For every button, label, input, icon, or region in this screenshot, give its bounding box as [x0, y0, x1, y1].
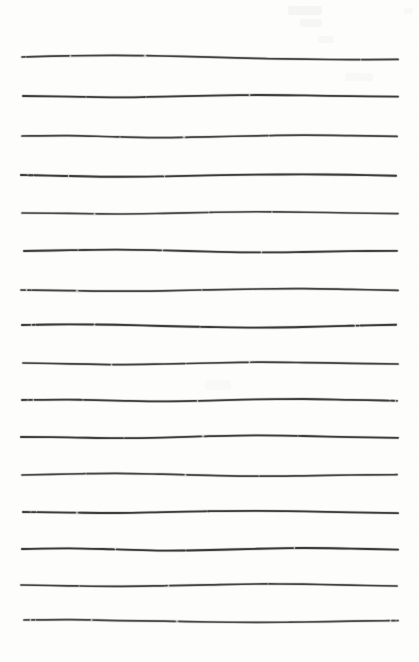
ruled-line-12 — [22, 473, 397, 476]
ruled-lines-layer — [0, 0, 419, 662]
ruled-line-10 — [22, 399, 397, 401]
ruled-line-2 — [23, 95, 398, 97]
ruled-line-3 — [22, 135, 397, 137]
ruled-line-13 — [23, 511, 398, 513]
ruled-line-9 — [23, 362, 398, 364]
ruled-line-7 — [21, 289, 398, 292]
ruled-lines-svg — [0, 0, 419, 662]
ruled-line-6 — [24, 250, 397, 253]
ruled-line-16 — [24, 620, 398, 623]
ruled-line-8 — [22, 324, 396, 327]
ruled-line-11 — [21, 435, 398, 438]
ruled-line-15 — [21, 584, 397, 586]
ruled-line-5 — [22, 212, 398, 214]
ruled-line-4 — [21, 174, 396, 176]
ruled-line-1 — [22, 55, 398, 59]
ruled-line-14 — [22, 548, 398, 551]
scanned-page — [0, 0, 419, 662]
